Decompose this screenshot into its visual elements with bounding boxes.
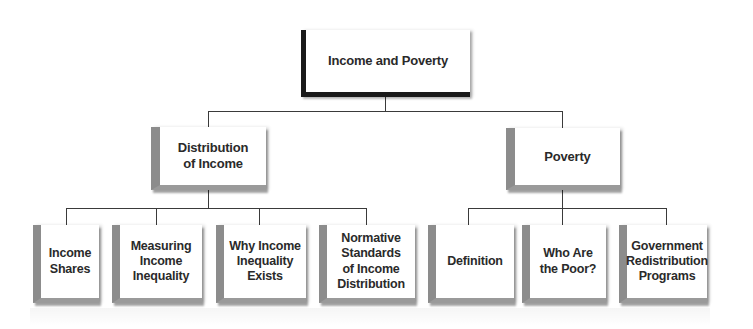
node-income-shares: Income Shares (33, 225, 99, 303)
connector-distribution-bar (66, 208, 367, 209)
connector-poverty-stem (562, 190, 563, 208)
node-label: Why Income Inequality Exists (229, 239, 301, 285)
connector-root-stem (385, 96, 386, 111)
floor-reflection (30, 308, 710, 326)
connector-to-definition (468, 208, 469, 225)
node-why-income-inequality-exists: Why Income Inequality Exists (216, 225, 306, 303)
node-measuring-income-inequality: Measuring Income Inequality (112, 225, 202, 303)
node-label: Government Redistribution Programs (626, 239, 708, 285)
connector-to-income-shares (66, 208, 67, 225)
node-government-redistribution-programs: Government Redistribution Programs (619, 225, 707, 303)
node-label: Poverty (544, 149, 590, 165)
root-node-label: Income and Poverty (328, 53, 448, 69)
node-label: Normative Standards of Income Distributi… (337, 231, 405, 292)
node-label: Income Shares (49, 246, 92, 277)
node-definition: Definition (428, 225, 514, 303)
connector-to-who-are-poor (562, 208, 563, 225)
connector-to-distribution (208, 111, 209, 127)
connector-distribution-stem (208, 190, 209, 208)
connector-to-normative-standards (366, 208, 367, 225)
node-label: Measuring Income Inequality (131, 239, 192, 285)
root-node: Income and Poverty (301, 30, 470, 97)
node-label: Definition (447, 254, 503, 269)
connector-to-measuring-inequality (156, 208, 157, 225)
node-label: Who Are the Poor? (540, 246, 597, 277)
node-normative-standards: Normative Standards of Income Distributi… (319, 225, 415, 303)
connector-to-why-inequality (259, 208, 260, 225)
node-label: Distribution of Income (178, 140, 249, 172)
node-distribution-of-income: Distribution of Income (151, 127, 266, 190)
node-who-are-the-poor: Who Are the Poor? (522, 225, 606, 303)
connector-poverty-bar (468, 208, 667, 209)
connector-to-redistribution-programs (666, 208, 667, 225)
connector-level1-bar (208, 111, 563, 112)
node-poverty: Poverty (506, 128, 620, 190)
connector-to-poverty (562, 111, 563, 128)
income-poverty-concept-map: Income and Poverty Distribution of Incom… (0, 0, 753, 329)
